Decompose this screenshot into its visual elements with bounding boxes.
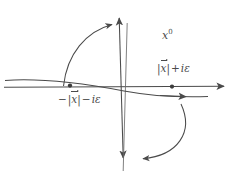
imaginary-axis: [119, 18, 123, 158]
pole-left-vector-x: x: [71, 94, 77, 105]
pole-left-prefix: −: [57, 93, 68, 105]
pole-label-left: −|x|−iε: [57, 94, 101, 105]
wick-rotation-arrow-upper: [64, 25, 113, 87]
pole-right-imaginary: iε: [181, 62, 190, 74]
pole-label-right: |x|+iε: [157, 63, 190, 74]
integration-contour: [5, 80, 208, 97]
vector-arrow-icon: [161, 60, 168, 61]
pole-right-vector-x: x: [161, 63, 167, 74]
wick-rotation-arrow-lower: [143, 104, 185, 159]
real-axis: [4, 86, 224, 87]
axis-label-x0: x0: [162, 30, 173, 41]
pole-right-variable: x: [161, 62, 167, 74]
figure-canvas: [0, 0, 238, 176]
axis-label-x0-superscript: 0: [168, 28, 172, 36]
pole-right-dot: [170, 84, 174, 88]
pole-right-operator: +: [170, 62, 181, 74]
pole-left-operator: −: [81, 93, 92, 105]
pole-left-dot: [68, 83, 72, 87]
pole-left-variable: x: [71, 93, 77, 105]
vector-arrow-icon: [71, 91, 78, 92]
pole-left-imaginary: iε: [92, 93, 101, 105]
contour-figure: x0 |x|+iε −|x|−iε: [0, 0, 238, 176]
imaginary-axis-parallel-line: [123, 23, 127, 171]
